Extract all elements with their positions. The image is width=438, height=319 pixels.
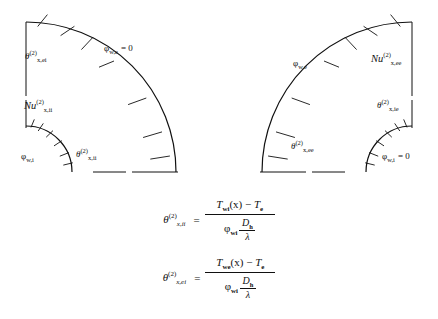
equation-theta-x-ii: θ(2)x,ii = Twi(x) − Te φwi Dh λ [0,198,438,242]
label-nu-x-ii-sub: x,ii [44,106,53,113]
outer-arc [262,22,412,172]
eq1-den-inner-num: Dh [240,217,255,230]
eq1-relation: = [194,214,200,226]
label-phi-w-i-sub: w,i [387,156,395,163]
eq1-fraction: Twi(x) − Te φwi Dh λ [205,198,275,242]
eq1-den-lambda: λ [245,231,249,242]
eq2-lhs-sup: (2) [168,270,176,278]
label-nu-x-ee-sub: x,ee [391,59,402,66]
eq1-den-D-sub: h [249,223,253,230]
label-phi-w-e: φw,e [293,59,307,70]
eq1-lhs: θ(2)x,ii [163,212,185,228]
eq1-den-inner-den: λ [243,231,251,242]
label-theta-x-ee: θ(2)x,ee [291,140,314,153]
equations-block: θ(2)x,ii = Twi(x) − Te φwi Dh λ [0,190,438,319]
label-theta-x-ee-sub: x,ee [303,146,314,153]
label-theta-x-ei: θ(2)x,ei [25,50,47,63]
eq2-den-phi: φwi [225,280,238,295]
eq2-numerator: Twe(x) − Te [212,256,268,272]
label-phi-w-e-zero: φw,e= 0 [104,44,133,55]
label-theta-x-ei-sup: (2) [29,49,37,56]
eq1-numerator: Twi(x) − Te [212,198,267,214]
label-nu-x-ee: Nu(2)x,ee [371,52,402,66]
label-nu-x-ii-sup: (2) [36,98,44,105]
label-phi-w-i: φw,i [21,152,34,163]
eq1-den-inner-fraction: Dh λ [239,217,255,242]
eq2-den-D: D [243,275,250,286]
eq2-den-lambda: λ [246,289,250,300]
label-phi-w-i-value: = 0 [398,151,410,161]
label-phi-w-i-sub: w,i [26,156,34,163]
label-theta-x-ie-sub: x,ie [389,105,399,112]
eq1-lhs-sub: x,ii [177,220,186,228]
label-phi-w-e-value: = 0 [121,43,133,53]
eq2-den-D-sub: h [250,281,254,288]
label-phi-w-i-zero: φw,i= 0 [382,152,410,163]
right-panel-diagram: Nu(2)x,ee θ(2)x,ie φw,i= 0 φw,e θ(2)x,ee [219,0,438,190]
label-nu-x-ee-sup: (2) [383,51,391,58]
eq2-lhs-sub: x,ei [176,278,186,286]
label-theta-x-ii: θ(2)x,ii [76,148,97,161]
label-nu-x-ii-base: Nu [24,100,36,111]
label-nu-x-ii: Nu(2)x,ii [24,99,52,113]
outer-arc [26,22,176,172]
eq2-relation: = [194,272,200,284]
eq2-den-phi-sub: wi [231,287,238,295]
equation-theta-x-ei: θ(2)x,ei = Twe(x) − Te φwi Dh λ [0,256,438,300]
eq2-den-inner-fraction: Dh λ [240,275,256,300]
label-theta-x-ii-sup: (2) [80,147,88,154]
eq2-num-T2-sub: e [261,263,264,271]
label-theta-x-ii-sub: x,ii [88,154,97,161]
eq2-den-inner-den: λ [244,289,252,300]
inner-arc-hatching [31,119,73,165]
left-panel-diagram: θ(2)x,ei Nu(2)x,ii φw,i θ(2)x,ii φw,e= 0 [0,0,219,190]
eq1-lhs-sup: (2) [169,212,177,220]
eq1-num-T2-sub: e [260,205,263,213]
eq2-denominator: φwi Dh λ [221,273,260,300]
label-phi-w-e-sub: w,e [109,48,118,55]
eq2-den-inner-num: Dh [241,275,256,288]
eq2-num-T-sub: we [222,263,230,271]
label-theta-x-ie-sup: (2) [381,98,389,105]
label-phi-w-e-sub: w,e [298,63,307,70]
label-theta-x-ei-sub: x,ei [37,56,47,63]
eq1-num-arg: (x) [229,198,242,210]
diagrams-row: θ(2)x,ei Nu(2)x,ii φw,i θ(2)x,ii φw,e= 0 [0,0,438,190]
eq1-den-phi: φwi [224,222,237,237]
label-theta-x-ee-sup: (2) [295,139,303,146]
eq2-lhs: θ(2)x,ei [163,270,187,286]
eq2-num-minus: − [246,256,252,268]
eq1-den-phi-sub: wi [230,229,237,237]
eq2-fraction: Twe(x) − Te φwi Dh λ [205,256,275,300]
eq1-denominator: φwi Dh λ [220,215,259,242]
label-theta-x-ie: θ(2)x,ie [377,99,399,112]
eq1-num-minus: − [245,198,251,210]
figure-container: θ(2)x,ei Nu(2)x,ii φw,i θ(2)x,ii φw,e= 0 [0,0,438,319]
eq2-num-arg: (x) [231,256,244,268]
label-nu-x-ee-base: Nu [371,53,383,64]
